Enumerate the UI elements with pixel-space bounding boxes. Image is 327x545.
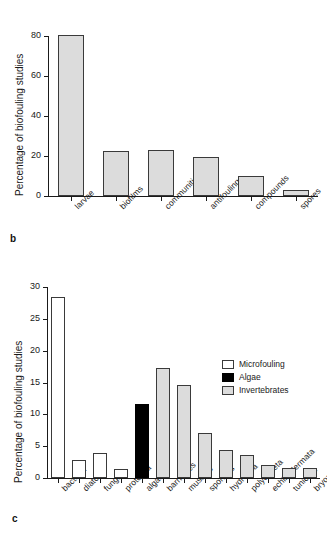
bar-echinodermata <box>261 465 275 478</box>
x-tick-label-biofilms: biofilms <box>118 204 125 211</box>
chart-b-y-tick <box>44 76 48 77</box>
chart-c-y-tick <box>43 351 47 352</box>
chart-c-x-tick <box>289 479 290 483</box>
bar-chart-b: 020406080Percentage of biofouling studie… <box>0 0 327 255</box>
x-tick-label-sponges: sponges <box>207 486 214 493</box>
x-tick-label-polychaeta: polychaeta <box>249 486 256 493</box>
chart-c-x-tick <box>163 479 164 483</box>
chart-c-x-tick <box>100 479 101 483</box>
legend-label: Invertebrates <box>239 386 289 395</box>
bar-chart-c: 051015202530Percentage of biofouling stu… <box>0 255 327 545</box>
chart-c-x-tick <box>121 479 122 483</box>
bar-larvae <box>58 35 84 196</box>
x-tick-label-mussels: mussels <box>186 486 193 493</box>
legend-swatch-icon <box>222 386 234 395</box>
chart-c-y-tick-label: 25 <box>7 314 40 323</box>
panel-letter-c: c <box>12 513 18 524</box>
bar-communities <box>148 150 174 196</box>
chart-c-x-tick <box>268 479 269 483</box>
figure: 020406080Percentage of biofouling studie… <box>0 0 327 545</box>
legend-label: Microfouling <box>239 360 285 369</box>
chart-b-x-tick <box>116 197 117 201</box>
chart-b-x-tick <box>206 197 207 201</box>
chart-c-x-tick <box>142 479 143 483</box>
chart-c-y-axis-label: Percentage of biofouling studies <box>13 341 24 483</box>
x-tick-label-compounds: compounds <box>253 204 260 211</box>
bar-protozoa <box>114 469 128 478</box>
chart-b-x-tick <box>71 197 72 201</box>
chart-c-y-tick <box>43 383 47 384</box>
chart-c-y-tick <box>43 319 47 320</box>
bar-tunicata <box>282 468 296 478</box>
bar-bacteria <box>51 297 65 478</box>
x-tick-label-communities: communities <box>163 204 170 211</box>
chart-c-x-tick <box>226 479 227 483</box>
chart-c-y-tick <box>43 414 47 415</box>
legend-label: Algae <box>239 373 261 382</box>
chart-c-y-axis-line <box>47 287 48 478</box>
chart-b-y-tick <box>44 116 48 117</box>
chart-b-x-tick <box>251 197 252 201</box>
chart-c-x-tick <box>247 479 248 483</box>
panel-b: 020406080Percentage of biofouling studie… <box>0 0 327 255</box>
x-tick-label-algae: algae <box>144 486 151 493</box>
legend-item-invertebrates: Invertebrates <box>222 384 289 397</box>
legend-item-microfouling: Microfouling <box>222 358 289 371</box>
bar-sponges <box>198 433 212 478</box>
chart-c-y-tick <box>43 287 47 288</box>
x-tick-label-larvae: larvae <box>73 204 80 211</box>
bar-polychaeta <box>240 455 254 478</box>
chart-c-x-tick <box>184 479 185 483</box>
bar-fungi <box>93 453 107 478</box>
chart-c-y-tick <box>43 478 47 479</box>
chart-c-legend: MicrofoulingAlgaeInvertebrates <box>222 358 289 397</box>
x-tick-label-bacteria: bacteria <box>60 486 67 493</box>
chart-b-y-tick <box>44 156 48 157</box>
legend-swatch-icon <box>222 373 234 382</box>
x-tick-label-echinodermata: echinodermata <box>270 486 277 493</box>
x-tick-label-protozoa: protozoa <box>123 486 130 493</box>
x-tick-label-bryozoa: bryozoa <box>312 486 319 493</box>
chart-b-y-tick-label: 80 <box>8 31 41 40</box>
x-tick-label-diatoms: diatoms <box>81 486 88 493</box>
chart-b-x-tick <box>161 197 162 201</box>
chart-b-y-axis-label: Percentage of biofouling studies <box>14 54 25 196</box>
chart-c-x-tick <box>310 479 311 483</box>
x-tick-label-spores: spores <box>298 204 305 211</box>
chart-b-x-tick <box>296 197 297 201</box>
chart-c-y-tick <box>43 446 47 447</box>
chart-c-x-tick <box>205 479 206 483</box>
chart-b-y-tick <box>44 36 48 37</box>
x-tick-label-hydrozoa: hydrozoa <box>228 486 235 493</box>
panel-letter-b: b <box>10 233 16 244</box>
chart-c-x-tick <box>58 479 59 483</box>
legend-item-algae: Algae <box>222 371 289 384</box>
chart-c-x-tick <box>79 479 80 483</box>
x-tick-label-tunicata: tunicata <box>291 486 298 493</box>
bar-biofilms <box>103 151 129 196</box>
bar-diatoms <box>72 460 86 478</box>
legend-swatch-icon <box>222 360 234 369</box>
chart-b-y-tick <box>44 196 48 197</box>
bar-algae <box>135 404 149 478</box>
chart-c-y-tick-label: 30 <box>7 282 40 291</box>
panel-c: 051015202530Percentage of biofouling stu… <box>0 255 327 545</box>
bar-bryozoa <box>303 468 317 478</box>
x-tick-label-antifouling: antifouling <box>208 204 215 211</box>
x-tick-label-barnacles: barnacles <box>165 486 172 493</box>
bar-hydrozoa <box>219 450 233 478</box>
bar-antifouling <box>193 157 219 196</box>
x-tick-label-fungi: fungi <box>102 486 109 493</box>
bar-mussels <box>177 385 191 478</box>
bar-barnacles <box>156 368 170 478</box>
chart-b-y-axis-line <box>48 36 49 196</box>
bar-compounds <box>238 176 264 196</box>
